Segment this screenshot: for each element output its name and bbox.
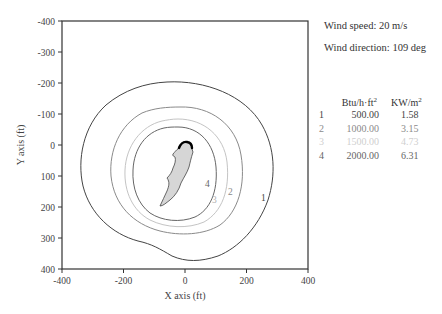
wind-direction-text: Wind direction: 109 deg (324, 42, 426, 53)
x-tick-label: -400 (53, 276, 71, 286)
legend-header-kw: KW/m2 (379, 96, 435, 108)
legend-btu-value: 500.00 (331, 109, 379, 120)
x-tick-label: 0 (183, 276, 188, 286)
legend-kw-value: 6.31 (379, 150, 435, 161)
contour-label-3: 3 (212, 195, 217, 205)
y-tick-label: -200 (38, 79, 56, 89)
wind-speed-text: Wind speed: 20 m/s (324, 20, 407, 31)
y-tick-label: 400 (41, 265, 56, 275)
legend-header-kw-text: KW/m (391, 97, 418, 108)
contour-label-4: 4 (205, 179, 210, 189)
y-tick-label: 100 (41, 172, 56, 182)
contour-label-1: 1 (261, 193, 266, 203)
x-tick-label: 400 (301, 276, 316, 286)
legend: Btu/h·ft2 KW/m2 1 500.00 1.58 2 1000.00 … (319, 90, 435, 162)
legend-kw-value: 1.58 (379, 109, 435, 120)
x-tick-label: 200 (239, 276, 254, 286)
legend-row-4: 4 2000.00 6.31 (319, 149, 435, 163)
legend-header-btu-text: Btu/h·ft (342, 97, 374, 108)
contour-label-2: 2 (228, 187, 233, 197)
legend-kw-value: 4.73 (379, 136, 435, 147)
y-tick-label: -400 (38, 17, 56, 27)
x-tick-label: -200 (115, 276, 133, 286)
legend-row-2: 2 1000.00 3.15 (319, 122, 435, 136)
y-tick-label: 200 (41, 203, 56, 213)
y-axis-label: Y axis (ft) (15, 125, 27, 166)
legend-index: 2 (319, 123, 331, 134)
legend-index: 3 (319, 136, 331, 147)
legend-kw-value: 3.15 (379, 123, 435, 134)
legend-index: 4 (319, 150, 331, 161)
legend-btu-value: 2000.00 (331, 150, 379, 161)
x-axis (62, 269, 308, 273)
legend-btu-value: 1000.00 (331, 123, 379, 134)
legend-header: Btu/h·ft2 KW/m2 (319, 90, 435, 108)
legend-row-1: 1 500.00 1.58 (319, 108, 435, 122)
legend-header-btu: Btu/h·ft2 (319, 96, 379, 108)
x-axis-label: X axis (ft) (164, 290, 205, 302)
y-tick-label: -100 (38, 110, 56, 120)
y-tick-label: 0 (50, 141, 55, 151)
legend-btu-value: 1500.00 (331, 136, 379, 147)
legend-row-3: 3 1500.00 4.73 (319, 135, 435, 149)
y-tick-label: 300 (41, 234, 56, 244)
legend-index: 1 (319, 109, 331, 120)
y-tick-label: -300 (38, 48, 56, 58)
